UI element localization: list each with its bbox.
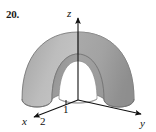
figure-container: 20.	[0, 0, 156, 132]
tick-labels: 1 2	[40, 103, 69, 127]
z-axis-label: z	[66, 7, 72, 19]
tick-label-2: 2	[40, 115, 46, 127]
hemispherical-shell-figure: z y x 1 2	[0, 0, 156, 132]
x-axis-label: x	[21, 115, 27, 127]
y-axis-label: y	[139, 117, 145, 129]
tick-label-1: 1	[63, 103, 69, 115]
